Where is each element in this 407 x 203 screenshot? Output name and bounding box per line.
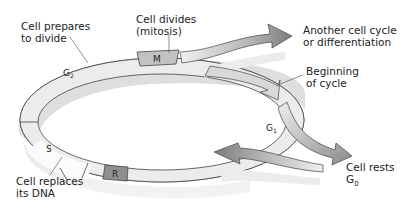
label-cell-divides: Cell divides (mitosis) <box>136 13 196 37</box>
cell-cycle-diagram: M R G2 S G1 <box>0 0 407 203</box>
label-cell-prepares: Cell prepares to divide <box>21 20 90 44</box>
label-beginning-of-cycle: Beginning of cycle <box>306 65 359 89</box>
mitosis-label: M <box>153 54 161 64</box>
restriction-label: R <box>112 169 118 179</box>
g1-label: G1 <box>266 123 277 134</box>
s-label: S <box>46 144 52 154</box>
label-cell-replaces-dna: Cell replaces its DNA <box>16 175 83 199</box>
label-another-cycle: Another cell cycle or differentiation <box>303 24 397 48</box>
mitosis-segment: M <box>137 50 179 66</box>
label-cell-rests: Cell rests G0 <box>346 161 395 190</box>
g2-label: G2 <box>63 68 74 79</box>
